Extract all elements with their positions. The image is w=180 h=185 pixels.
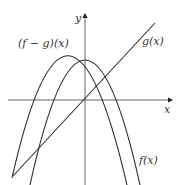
f-label: f(x) [138, 154, 158, 167]
x-axis-label: x [164, 103, 171, 116]
f-minus-g-label: (f − g)(x) [18, 37, 69, 50]
g-label: g(x) [142, 35, 164, 48]
f-minus-g-parabola [12, 56, 127, 185]
y-axis-label: y [74, 12, 82, 25]
graph-figure: (f − g)(x) g(x) f(x) y x [0, 0, 180, 185]
